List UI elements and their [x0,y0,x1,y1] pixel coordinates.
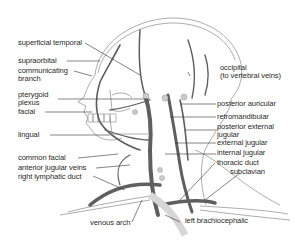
label-pterygoid-plexus: pterygoidplexus [18,91,48,108]
label-left-brachiocephalic: left brachiocephalic [185,217,248,225]
leader-lines [45,43,240,222]
label-lingual: lingual [18,131,39,139]
teeth [88,114,116,122]
label-facial: facial [18,108,35,116]
label-posterior-auricular: posterior auricular [217,100,276,108]
label-superficial-temporal: superficial temporal [18,39,82,47]
label-external-jugular: external jugular [217,139,267,147]
label-occipital: occipital(to vertebral veins) [220,64,281,81]
label-retromandibular: retromandibular [217,113,269,121]
label-communicating-branch: communicatingbranch [18,67,68,84]
veins [90,30,215,215]
label-venous-arch: venous arch [90,219,130,227]
label-supraorbital: supraorbital [18,57,56,65]
label-right-lymphatic-duct: right lymphatic duct [18,173,81,181]
label-internal-jugular: internal jugular [217,149,265,157]
label-subclavian: subclavian [230,168,265,176]
label-common-facial: common facial [18,154,66,162]
